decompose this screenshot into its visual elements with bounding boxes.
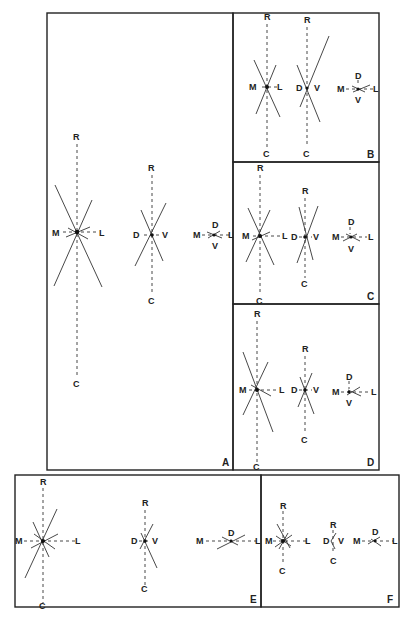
svg-text:M: M [196, 536, 204, 546]
star-a2: R C D V [133, 163, 168, 306]
panel-label-a: A [222, 457, 229, 468]
svg-text:V: V [152, 536, 158, 546]
svg-text:C: C [263, 149, 270, 159]
svg-text:R: R [264, 12, 271, 22]
svg-text:R: R [302, 344, 309, 354]
svg-text:D: D [323, 536, 330, 546]
svg-text:D: D [346, 372, 353, 382]
svg-text:M: M [15, 536, 23, 546]
orientation-diagram: A B C D E F R C M L R C D V D V M L [0, 0, 415, 621]
svg-text:C: C [279, 566, 286, 576]
svg-text:C: C [141, 584, 148, 594]
svg-text:M: M [353, 536, 361, 546]
svg-text:L: L [255, 536, 261, 546]
svg-text:V: V [162, 230, 168, 240]
svg-text:M: M [332, 387, 340, 397]
svg-text:D: D [296, 83, 303, 93]
svg-text:D: D [372, 527, 379, 537]
svg-text:M: M [265, 536, 273, 546]
svg-text:C: C [73, 379, 80, 389]
panel-a-frame [47, 13, 233, 470]
svg-text:V: V [314, 83, 320, 93]
svg-text:C: C [148, 296, 155, 306]
svg-text:C: C [301, 435, 308, 445]
star-c3: D V M L [332, 217, 374, 254]
svg-text:M: M [337, 84, 345, 94]
panel-label-d: D [367, 457, 374, 468]
star-e3: D M L [196, 528, 261, 549]
svg-text:L: L [371, 387, 377, 397]
svg-text:L: L [277, 82, 283, 92]
svg-text:L: L [75, 536, 81, 546]
svg-text:R: R [40, 477, 47, 487]
svg-text:L: L [392, 536, 398, 546]
svg-text:C: C [303, 149, 310, 159]
star-f3: D M L [353, 527, 398, 546]
panel-label-f: F [387, 594, 393, 605]
svg-text:R: R [254, 309, 261, 319]
svg-text:D: D [131, 536, 138, 546]
svg-text:R: R [280, 501, 287, 511]
svg-text:D: D [228, 528, 235, 538]
svg-text:V: V [212, 241, 218, 251]
svg-text:C: C [256, 296, 263, 306]
svg-text:C: C [330, 556, 337, 566]
svg-text:M: M [239, 385, 247, 395]
svg-text:V: V [313, 232, 319, 242]
star-e2: R C D V [131, 498, 158, 594]
svg-text:R: R [330, 520, 337, 530]
svg-text:D: D [212, 220, 219, 230]
star-d2: R C D V [291, 344, 319, 445]
svg-text:D: D [355, 71, 362, 81]
svg-text:L: L [228, 230, 234, 240]
svg-text:M: M [242, 231, 250, 241]
svg-text:R: R [257, 163, 264, 173]
star-a3: D V M L [193, 220, 234, 251]
svg-text:L: L [305, 536, 311, 546]
panel-label-c: C [367, 291, 374, 302]
svg-text:R: R [302, 186, 309, 196]
star-b1: R C M L [249, 12, 283, 159]
svg-text:D: D [291, 385, 298, 395]
panel-label-b: B [367, 149, 374, 160]
svg-text:L: L [282, 231, 288, 241]
star-b3: D V M L [337, 71, 379, 105]
star-b2: R C D V [296, 15, 329, 159]
svg-text:V: V [348, 244, 354, 254]
star-f1: R C M L [265, 501, 311, 576]
svg-text:C: C [39, 601, 46, 611]
svg-text:M: M [332, 232, 340, 242]
svg-text:M: M [249, 82, 257, 92]
svg-text:V: V [313, 385, 319, 395]
svg-text:D: D [291, 232, 298, 242]
star-e1: R C M L [15, 477, 81, 611]
svg-text:M: M [52, 228, 60, 238]
svg-text:V: V [355, 95, 361, 105]
svg-text:L: L [99, 228, 105, 238]
svg-text:V: V [338, 536, 344, 546]
star-a1: R C M L [52, 132, 105, 389]
star-d1: R C M L [239, 309, 285, 472]
svg-text:L: L [279, 385, 285, 395]
star-d3: D V M L [332, 372, 377, 408]
star-c1: R C M L [242, 163, 288, 306]
svg-text:D: D [133, 230, 140, 240]
svg-text:M: M [193, 230, 201, 240]
svg-text:R: R [148, 163, 155, 173]
svg-text:C: C [301, 279, 308, 289]
svg-text:L: L [368, 232, 374, 242]
svg-text:L: L [373, 84, 379, 94]
svg-text:C: C [253, 462, 260, 472]
star-f2: R C D V [323, 520, 344, 566]
svg-text:R: R [304, 15, 311, 25]
star-c2: R C D V [291, 186, 319, 289]
svg-text:R: R [142, 498, 149, 508]
svg-text:R: R [73, 132, 80, 142]
panel-label-e: E [250, 594, 257, 605]
svg-text:D: D [348, 217, 355, 227]
svg-text:V: V [346, 398, 352, 408]
